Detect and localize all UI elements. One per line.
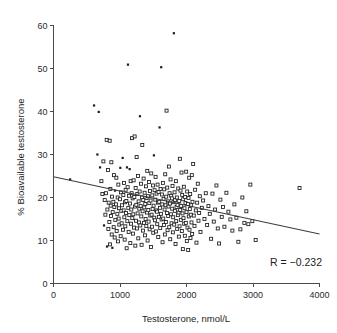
data-point-open (147, 220, 150, 223)
data-point-open (207, 205, 210, 208)
data-point-filled (126, 166, 128, 168)
data-point-open (150, 172, 153, 175)
data-point-open (184, 221, 187, 224)
data-point-open (132, 226, 135, 229)
data-point-open (190, 174, 193, 177)
data-point-open (143, 191, 146, 194)
data-point-open (191, 200, 194, 203)
data-point-open (144, 202, 147, 205)
data-point-open (132, 179, 135, 182)
trend-line (54, 177, 320, 234)
data-point-open (188, 228, 191, 231)
data-point-open (158, 200, 161, 203)
data-point-open (111, 195, 114, 198)
data-point-open (133, 135, 136, 138)
data-point-open (123, 216, 126, 219)
data-point-open (196, 201, 199, 204)
data-point-open (154, 230, 157, 233)
data-point-open (198, 211, 201, 214)
data-point-open (178, 157, 181, 160)
x-tick-labels: 01000200030004000 (51, 290, 330, 300)
data-point-open (127, 206, 130, 209)
data-point-open (150, 225, 153, 228)
data-point-open (183, 234, 186, 237)
data-point-open (186, 190, 189, 193)
data-point-open (153, 189, 156, 192)
data-point-filled (99, 166, 101, 168)
data-point-open (245, 210, 248, 213)
data-point-open (298, 187, 301, 190)
data-point-open (146, 169, 149, 172)
x-tick-label: 2000 (176, 290, 196, 300)
data-point-open (163, 233, 166, 236)
data-point-open (178, 199, 181, 202)
data-point-open (124, 225, 127, 228)
data-point-open (189, 213, 192, 216)
data-point-open (219, 198, 222, 201)
data-point-open (134, 187, 137, 190)
y-tick-label: 10 (37, 236, 47, 246)
data-point-open (182, 185, 185, 188)
data-point-open (136, 175, 139, 178)
data-point-filled (103, 224, 105, 226)
data-point-open (169, 178, 172, 181)
data-point-open (181, 212, 184, 215)
data-point-open (173, 209, 176, 212)
data-point-open (220, 215, 223, 218)
data-point-open (174, 180, 177, 183)
data-point-open (196, 182, 199, 185)
data-point-open (203, 218, 206, 221)
y-tick-label: 60 (37, 21, 47, 31)
chart-canvas: 01000200030004000 0102030405060 Testoste… (0, 0, 337, 333)
data-point-open (206, 224, 209, 227)
data-point-open (132, 213, 135, 216)
data-point-open (146, 239, 149, 242)
data-point-open (136, 212, 139, 215)
data-point-open (223, 225, 226, 228)
data-point-open (161, 203, 164, 206)
data-point-open (179, 189, 182, 192)
data-point-open (139, 205, 142, 208)
data-points-group (69, 32, 301, 251)
data-point-open (128, 214, 131, 217)
y-tick-label: 0 (42, 279, 47, 289)
data-point-open (140, 215, 143, 218)
data-point-open (211, 192, 214, 195)
data-point-open (202, 199, 205, 202)
data-point-open (192, 162, 195, 165)
data-point-open (134, 244, 137, 247)
data-point-open (229, 218, 232, 221)
data-point-open (151, 208, 154, 211)
data-point-open (116, 212, 119, 215)
data-point-open (168, 226, 171, 229)
data-point-open (167, 205, 170, 208)
data-point-open (134, 219, 137, 222)
data-point-open (139, 182, 142, 185)
data-point-open (216, 227, 219, 230)
data-point-open (106, 208, 109, 211)
regression-line (54, 177, 320, 234)
data-point-open (161, 241, 164, 244)
data-point-open (154, 175, 157, 178)
data-point-open (122, 181, 125, 184)
data-point-open (110, 161, 113, 164)
data-point-open (150, 213, 153, 216)
data-point-open (137, 221, 140, 224)
correlation-annotation: R = −0.232 (270, 256, 322, 268)
data-point-filled (122, 157, 124, 159)
data-point-open (225, 191, 228, 194)
data-point-open (135, 227, 138, 230)
y-tick-label: 30 (37, 150, 47, 160)
data-point-open (152, 204, 155, 207)
data-point-open (192, 214, 195, 217)
data-point-open (157, 236, 160, 239)
data-point-open (140, 243, 143, 246)
data-point-filled (106, 245, 108, 247)
data-point-open (126, 220, 129, 223)
data-point-open (179, 208, 182, 211)
data-point-open (185, 170, 188, 173)
data-point-open (198, 195, 201, 198)
x-tick-label: 0 (51, 290, 56, 300)
data-point-open (164, 204, 167, 207)
data-point-open (210, 237, 213, 240)
